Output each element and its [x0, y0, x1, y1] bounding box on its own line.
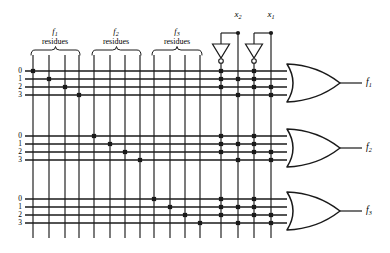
input-connection-dot — [219, 77, 223, 81]
input-junction-dot-inv-x1 — [269, 31, 273, 35]
input-junction-dot-inv-x2 — [236, 31, 240, 35]
input-connection-dot — [219, 142, 223, 146]
residue-connection-dot — [92, 134, 96, 138]
row-index-label-band-f2-2: 2 — [9, 148, 22, 156]
input-connection-dot — [219, 69, 223, 73]
input-connection-dot — [236, 142, 240, 146]
brace-f3-residues — [152, 47, 202, 56]
group-residues-caption-f1-residues: residues — [20, 38, 90, 46]
input-connection-dot — [219, 197, 223, 201]
row-index-label-band-f2-3: 3 — [9, 156, 22, 164]
logic-diagram-canvas: f1residuesf2residuesf3residuesx2x1012301… — [0, 0, 390, 253]
row-index-label-band-f3-0: 0 — [9, 195, 22, 203]
brace-f2-residues — [92, 47, 141, 56]
input-connection-dot — [252, 77, 256, 81]
group-function-label-f2-residues: f2 — [81, 27, 151, 37]
input-connection-dot — [252, 69, 256, 73]
row-index-label-band-f3-3: 3 — [9, 219, 22, 227]
or-gate-band-f2 — [287, 129, 340, 167]
residue-connection-dot — [77, 93, 81, 97]
row-index-label-band-f2-1: 1 — [9, 140, 22, 148]
output-label-out-f2: f2 — [366, 143, 390, 153]
input-connection-dot — [269, 85, 273, 89]
residue-connection-dot — [31, 69, 35, 73]
or-gate-band-f1 — [287, 64, 340, 102]
input-connection-dot — [269, 221, 273, 225]
input-label-x1: x1 — [259, 10, 283, 20]
input-connection-dot — [219, 205, 223, 209]
connection-dots-group — [31, 69, 273, 225]
row-index-label-band-f1-3: 3 — [9, 91, 22, 99]
inverter-triangle-inv-x1 — [246, 44, 263, 58]
input-connection-dot — [252, 205, 256, 209]
input-connection-dot — [236, 158, 240, 162]
output-label-out-f3: f3 — [366, 206, 390, 216]
inverter-triangle-inv-x2 — [213, 44, 230, 58]
input-connection-dot — [236, 93, 240, 97]
residue-connection-dot — [123, 150, 127, 154]
input-connection-dot — [252, 134, 256, 138]
residue-connection-dot — [108, 142, 112, 146]
or-gates-group — [287, 64, 362, 230]
residue-connection-dot — [63, 85, 67, 89]
input-connection-dot — [252, 197, 256, 201]
inverters-group — [213, 31, 274, 63]
input-connection-dot — [252, 142, 256, 146]
input-connection-dot — [236, 205, 240, 209]
residue-connection-dot — [47, 77, 51, 81]
residue-connection-dot — [168, 205, 172, 209]
input-label-x2: x2 — [226, 10, 250, 20]
input-connection-dot — [269, 158, 273, 162]
inverter-bubble-inv-x2 — [219, 59, 224, 64]
input-connection-dot — [252, 150, 256, 154]
input-connection-dot — [219, 85, 223, 89]
input-connection-dot — [236, 77, 240, 81]
row-index-label-band-f1-1: 1 — [9, 75, 22, 83]
row-index-label-band-f3-2: 2 — [9, 211, 22, 219]
output-label-out-f1: f1 — [366, 78, 390, 88]
row-index-label-band-f3-1: 1 — [9, 203, 22, 211]
inverter-bubble-inv-x1 — [252, 59, 257, 64]
row-index-label-band-f2-0: 0 — [9, 132, 22, 140]
residue-connection-dot — [152, 197, 156, 201]
residue-connection-dot — [183, 213, 187, 217]
residue-connection-dot — [138, 158, 142, 162]
residue-connection-dot — [198, 221, 202, 225]
input-connection-dot — [269, 93, 273, 97]
brace-f1-residues — [31, 47, 80, 56]
input-connection-dot — [252, 213, 256, 217]
input-connection-dot — [236, 221, 240, 225]
group-residues-caption-f3-residues: residues — [142, 38, 212, 46]
input-connection-dot — [219, 213, 223, 217]
input-connection-dot — [269, 150, 273, 154]
or-gate-band-f3 — [287, 192, 340, 230]
group-function-label-f3-residues: f3 — [142, 27, 212, 37]
group-residues-caption-f2-residues: residues — [81, 38, 151, 46]
input-connection-dot — [219, 150, 223, 154]
braces-group — [31, 47, 202, 56]
input-connection-dot — [269, 213, 273, 217]
row-index-label-band-f1-2: 2 — [9, 83, 22, 91]
input-connection-dot — [252, 85, 256, 89]
input-connection-dot — [219, 134, 223, 138]
row-index-label-band-f1-0: 0 — [9, 67, 22, 75]
group-function-label-f1-residues: f1 — [20, 27, 90, 37]
